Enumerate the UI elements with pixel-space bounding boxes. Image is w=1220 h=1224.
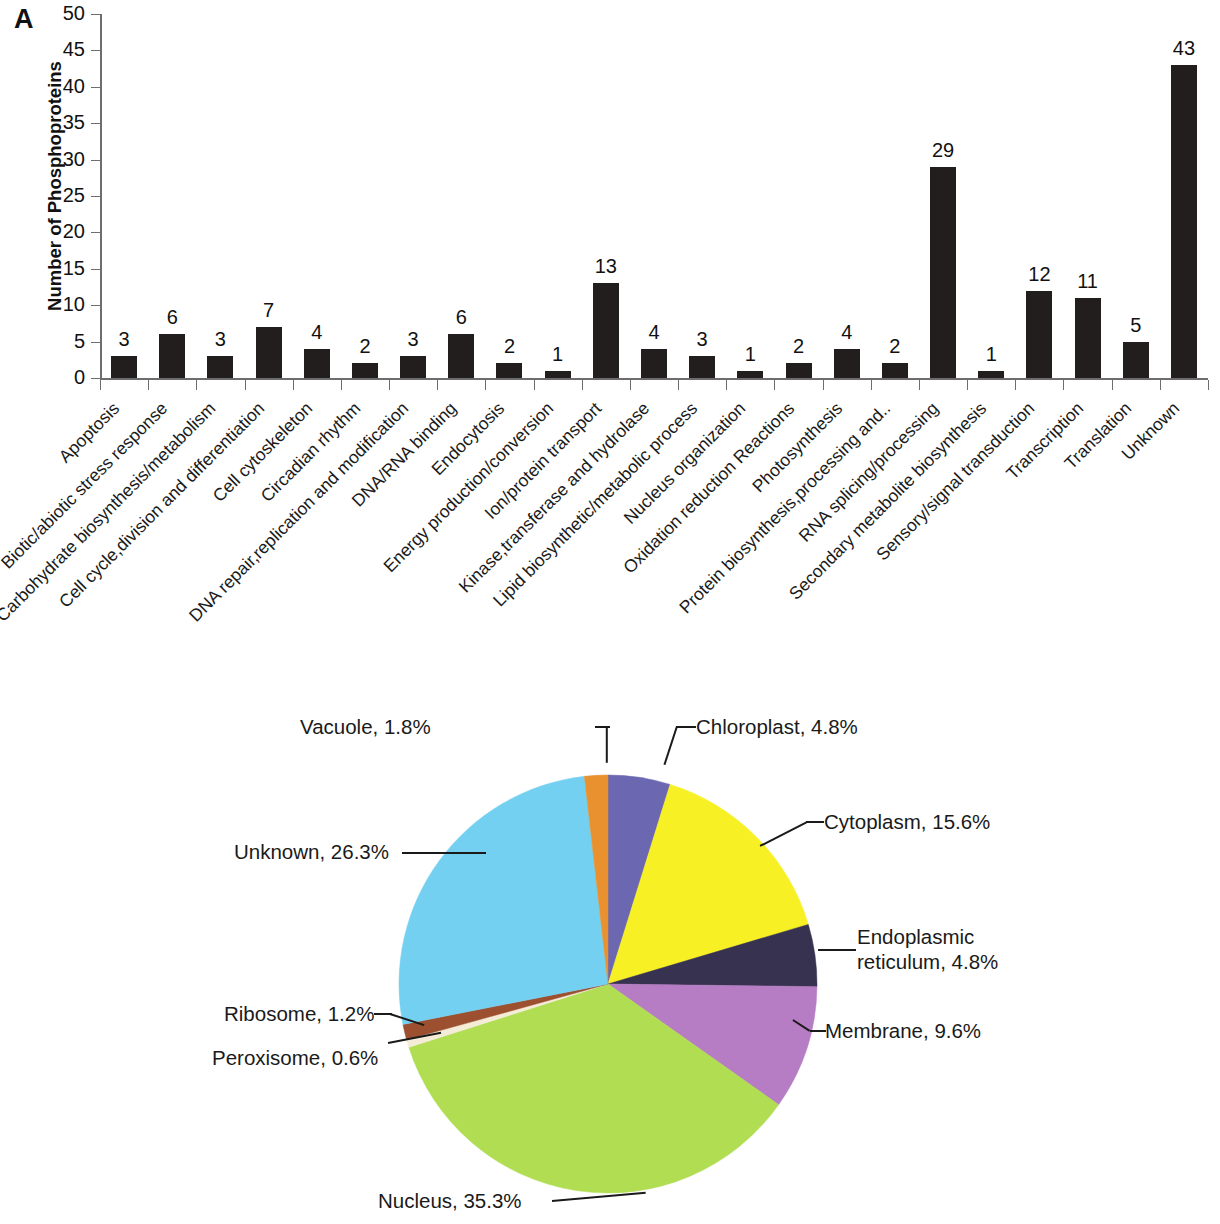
pie-leader-cytoplasm: [806, 821, 824, 823]
pie-chart-svg: [398, 774, 818, 1194]
pie-leader-endoplasmic-reticulum: [818, 949, 856, 951]
bar-chart-y-tick-label: 0: [25, 366, 85, 389]
bar-chart-x-tick: [485, 380, 486, 390]
bar-chart-x-tick: [389, 380, 390, 390]
bar-chart-x-tick: [726, 380, 727, 390]
bar-chart-bar: [1075, 298, 1101, 378]
bar-chart-bar: [689, 356, 715, 378]
bar-chart-value-label: 43: [1154, 37, 1214, 60]
bar-chart-y-tick-label: 25: [25, 184, 85, 207]
bar-chart-value-label: 29: [913, 139, 973, 162]
panel-a-bar-chart: A Number of Phosphoproteins 051015202530…: [0, 0, 1220, 690]
bar-chart-value-label: 2: [865, 335, 925, 358]
pie-label-er-line1: Endoplasmic: [857, 925, 974, 948]
pie-leader-chloroplast: [676, 726, 696, 728]
bar-chart-y-tick: [91, 378, 100, 379]
bar-chart-category-label: Secondary metabolite biosynthesis: [694, 398, 992, 696]
bar-chart-y-tick-label: 15: [25, 257, 85, 280]
bar-chart-x-tick: [1063, 380, 1064, 390]
bar-chart-x-tick: [100, 380, 101, 390]
bar-chart-category-label: DNA/RNA binding: [164, 398, 462, 696]
pie-label-endoplasmic-reticulum: Endoplasmic reticulum, 4.8%: [857, 924, 1047, 974]
bar-chart-y-tick: [91, 196, 100, 197]
bar-chart-category-label: Biotic/abiotic stress response: [0, 398, 172, 696]
bar-chart-category-label: Lipid biosynthetic/metabolic process: [404, 398, 702, 696]
bar-chart-bar: [737, 371, 763, 378]
bar-chart-y-tick-label: 30: [25, 148, 85, 171]
bar-chart-bar: [930, 167, 956, 378]
pie-label-nucleus: Nucleus, 35.3%: [378, 1188, 522, 1213]
pie-label-peroxisome: Peroxisome, 0.6%: [212, 1045, 378, 1070]
bar-chart-category-label: Energy production/conversion: [260, 398, 558, 696]
bar-chart-x-tick: [196, 380, 197, 390]
bar-chart-y-tick: [91, 305, 100, 306]
bar-chart-value-label: 3: [94, 328, 154, 351]
bar-chart-x-tick: [774, 380, 775, 390]
bar-chart-bar: [1171, 65, 1197, 378]
bar-chart-bar: [400, 356, 426, 378]
bar-chart-bar: [593, 283, 619, 378]
bar-chart-value-label: 11: [1058, 270, 1118, 293]
bar-chart-x-tick: [967, 380, 968, 390]
bar-chart-y-tick-label: 35: [25, 111, 85, 134]
bar-chart-x-tick: [293, 380, 294, 390]
bar-chart-value-label: 3: [190, 328, 250, 351]
bar-chart-category-label: Photosynthesis: [549, 398, 847, 696]
bar-chart-x-tick: [678, 380, 679, 390]
bar-chart-x-tick: [1015, 380, 1016, 390]
bar-chart-bar: [207, 356, 233, 378]
bar-chart-y-axis-line: [100, 14, 102, 380]
bar-chart-category-label: Transcription: [790, 398, 1088, 696]
bar-chart-value-label: 1: [528, 343, 588, 366]
pie-leader-chloroplast-stem: [664, 727, 678, 766]
pie-leader-unknown: [402, 852, 486, 854]
bar-chart-y-tick: [91, 123, 100, 124]
bar-chart-y-tick: [91, 232, 100, 233]
pie-leader-vacuole-stem: [606, 727, 608, 763]
bar-chart-x-tick: [630, 380, 631, 390]
bar-chart-x-tick: [871, 380, 872, 390]
bar-chart-y-tick: [91, 160, 100, 161]
bar-chart-bar: [978, 371, 1004, 378]
bar-chart-y-tick: [91, 14, 100, 15]
bar-chart-category-label: Translation: [838, 398, 1136, 696]
bar-chart-y-tick-label: 45: [25, 38, 85, 61]
bar-chart-value-label: 3: [383, 328, 443, 351]
bar-chart-bar: [256, 327, 282, 378]
bar-chart-y-tick-label: 50: [25, 2, 85, 25]
bar-chart-x-tick: [534, 380, 535, 390]
bar-chart-bar: [159, 334, 185, 378]
bar-chart-bar: [304, 349, 330, 378]
pie-label-vacuole: Vacuole, 1.8%: [300, 714, 431, 739]
pie-label-ribosome: Ribosome, 1.2%: [224, 1001, 374, 1026]
bar-chart-x-tick: [1112, 380, 1113, 390]
pie-chart-graphic: [398, 774, 818, 1194]
bar-chart-bar: [834, 349, 860, 378]
bar-chart-x-tick: [1160, 380, 1161, 390]
bar-chart-bar: [352, 363, 378, 378]
pie-label-cytoplasm: Cytoplasm, 15.6%: [824, 809, 990, 834]
pie-label-er-line2: reticulum, 4.8%: [857, 950, 998, 973]
bar-chart-value-label: 13: [576, 255, 636, 278]
bar-chart-category-label: Cell cytoskeleton: [19, 398, 317, 696]
bar-chart-bar: [448, 334, 474, 378]
bar-chart-bar: [111, 356, 137, 378]
bar-chart-category-label: Circadian rhythm: [67, 398, 365, 696]
pie-label-membrane: Membrane, 9.6%: [825, 1018, 981, 1043]
bar-chart-category-label: Cell cycle,division and differentiation: [0, 398, 269, 696]
bar-chart-value-label: 7: [239, 299, 299, 322]
bar-chart-bar: [882, 363, 908, 378]
bar-chart-value-label: 6: [142, 306, 202, 329]
bar-chart-value-label: 1: [961, 343, 1021, 366]
bar-chart-x-tick: [1208, 380, 1209, 390]
pie-label-chloroplast: Chloroplast, 4.8%: [696, 714, 858, 739]
bar-chart-y-tick-label: 40: [25, 75, 85, 98]
bar-chart-x-tick: [341, 380, 342, 390]
bar-chart-category-label: Protein biosynthesis,processing and..: [597, 398, 895, 696]
pie-leader-membrane: [810, 1030, 826, 1032]
bar-chart-category-label: Endocytosis: [212, 398, 510, 696]
bar-chart-y-tick-label: 20: [25, 220, 85, 243]
bar-chart-category-label: Carbohydrate biosynthesis/metabolism: [0, 398, 220, 696]
bar-chart-category-label: Oxidation reduction Reactions: [501, 398, 799, 696]
pie-label-unknown: Unknown, 26.3%: [234, 839, 389, 864]
